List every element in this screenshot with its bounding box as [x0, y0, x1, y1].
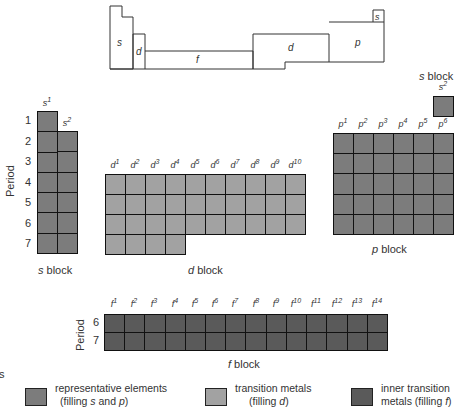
cell [206, 215, 225, 234]
cell [368, 333, 387, 350]
cell [106, 235, 125, 254]
f-period-7: 7 [89, 334, 103, 346]
f-header-7: f7 [225, 299, 245, 309]
cell [186, 215, 205, 234]
f-header-9: f9 [266, 299, 286, 309]
p-header-1: p1 [333, 119, 353, 129]
d-header-6: d6 [205, 160, 225, 170]
cell [434, 134, 453, 153]
cell [38, 193, 57, 212]
cell [286, 195, 305, 214]
schematic-label-p: p [354, 37, 361, 48]
d-header-9: d9 [265, 160, 285, 170]
cell [354, 195, 373, 214]
cell [374, 215, 393, 234]
f-header-14: f14 [367, 299, 387, 309]
cell [186, 333, 205, 350]
cell [414, 154, 433, 173]
cell [394, 215, 413, 234]
d-block-row-7 [105, 234, 186, 255]
cell [374, 174, 393, 193]
cell [414, 195, 433, 214]
cell [58, 234, 77, 253]
cell [145, 333, 164, 350]
cell [334, 215, 353, 234]
cell [38, 234, 57, 253]
cell [334, 154, 353, 173]
schematic-label-d-narrow: d [136, 46, 142, 57]
p-header-2: p2 [353, 119, 373, 129]
cell [166, 235, 185, 254]
cell [206, 333, 225, 350]
d-header-1: d1 [105, 160, 125, 170]
cell [226, 195, 245, 214]
cell [354, 215, 373, 234]
cell [434, 174, 453, 193]
f-header-13: f13 [347, 299, 367, 309]
s-block-label: s block [38, 264, 72, 276]
f-header-5: f5 [185, 299, 205, 309]
legend-swatch-transition [205, 388, 227, 406]
legend-swatch-inner-transition [351, 388, 373, 406]
d-block-main [105, 174, 306, 235]
cell [226, 333, 245, 350]
f-block-grid [104, 314, 388, 351]
cell [125, 315, 144, 332]
legend-text-inner-transition: inner transition metals (filling f) [381, 382, 452, 408]
cell [354, 174, 373, 193]
cell [38, 112, 57, 131]
cell [126, 175, 145, 194]
cell [394, 195, 413, 214]
p-header-6: p6 [433, 119, 453, 129]
cell [286, 215, 305, 234]
period-4: 4 [21, 176, 35, 188]
cell [334, 134, 353, 153]
cell [266, 215, 285, 234]
cell [58, 193, 77, 212]
period-5: 5 [21, 196, 35, 208]
cell [186, 195, 205, 214]
f-header-11: f11 [306, 299, 326, 309]
legend-swatch-representative [25, 388, 47, 406]
cell [374, 195, 393, 214]
cell [354, 134, 373, 153]
p-header-3: p3 [373, 119, 393, 129]
legend-cut-text: s [0, 368, 5, 380]
d-header-3: d3 [145, 160, 165, 170]
cell [58, 132, 77, 151]
legend-text-transition: transition metals (filling d) [235, 382, 311, 408]
cell [105, 315, 124, 332]
cell [166, 315, 185, 332]
cell [206, 195, 225, 214]
cell [267, 333, 286, 350]
cell [327, 333, 346, 350]
s-block-column-2 [57, 131, 78, 254]
cell [106, 175, 125, 194]
cell [368, 315, 387, 332]
cell [58, 173, 77, 192]
cell [246, 215, 265, 234]
cell [246, 195, 265, 214]
cell [166, 175, 185, 194]
cell [38, 173, 57, 192]
legend-text-representative: representative elements (filling s and p… [55, 382, 167, 408]
cell [348, 333, 367, 350]
f-period-axis-label: Period [74, 311, 86, 351]
cell [394, 134, 413, 153]
cell [434, 215, 453, 234]
cell [166, 215, 185, 234]
cell [246, 175, 265, 194]
cell [374, 134, 393, 153]
cell [226, 215, 245, 234]
he-s2-header: s2 [433, 82, 453, 92]
period-axis-label: Period [4, 157, 16, 197]
cell [186, 315, 205, 332]
cell [146, 215, 165, 234]
cell [146, 175, 165, 194]
f-header-4: f4 [165, 299, 185, 309]
f-period-6: 6 [89, 316, 103, 328]
f-header-6: f6 [205, 299, 225, 309]
d-header-8: d8 [245, 160, 265, 170]
d-header-10: d10 [285, 160, 305, 170]
period-6: 6 [21, 217, 35, 229]
